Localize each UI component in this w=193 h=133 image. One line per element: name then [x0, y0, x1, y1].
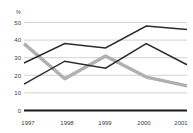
- line-chart: % 50 40 30 20 10 0 1997 19: [0, 0, 193, 133]
- chart-plot-area: % 50 40 30 20 10 0 1997 19: [0, 0, 193, 133]
- y-tick-label-20: 20: [14, 73, 21, 79]
- y-axis-unit-label: %: [16, 9, 21, 15]
- y-tick-label-40: 40: [14, 37, 21, 43]
- x-tick-label-1997: 1997: [21, 120, 35, 126]
- x-tick-label-2001: 2001: [174, 120, 188, 126]
- y-tick-label-50: 50: [14, 20, 21, 26]
- y-tick-label-30: 30: [14, 55, 21, 61]
- x-tick-label-2000: 2000: [137, 120, 151, 126]
- y-tick-label-10: 10: [14, 90, 21, 96]
- x-tick-label-1998: 1998: [60, 120, 74, 126]
- x-tick-label-1999: 1999: [98, 120, 112, 126]
